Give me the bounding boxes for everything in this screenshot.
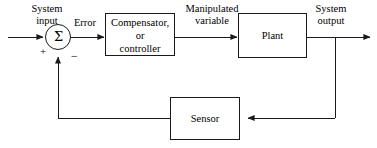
block-label-sensor: Sensor (170, 112, 240, 125)
signal-label-system-output-line-2: output (300, 15, 362, 27)
block-label-compensator-line-1: Compensator, (105, 16, 175, 29)
summing-junction-plus-sign: + (40, 46, 46, 57)
signal-label-error-line-1: Error (66, 17, 104, 29)
signal-label-system-input-line-1: System (16, 3, 78, 15)
block-label-plant-line-1: Plant (238, 29, 307, 42)
summing-junction-minus-sign: − (71, 50, 78, 62)
signal-label-manipulated-variable-line-2: variable (176, 15, 248, 27)
control-system-block-diagram: Σ + − Compensator, or controller Plant S… (0, 0, 377, 148)
block-label-compensator: Compensator, or controller (105, 16, 175, 55)
signal-label-manipulated-variable-line-1: Manipulated (176, 3, 248, 15)
block-label-compensator-line-2: or (105, 29, 175, 42)
block-label-compensator-line-3: controller (105, 42, 175, 55)
summing-junction-sigma: Σ (50, 29, 67, 45)
block-label-plant: Plant (238, 29, 307, 42)
signal-label-system-output-line-1: System (300, 3, 362, 15)
signal-label-error: Error (66, 17, 104, 29)
signal-label-system-output: System output (300, 3, 362, 27)
block-label-sensor-line-1: Sensor (170, 112, 240, 125)
signal-label-manipulated-variable: Manipulated variable (176, 3, 248, 27)
